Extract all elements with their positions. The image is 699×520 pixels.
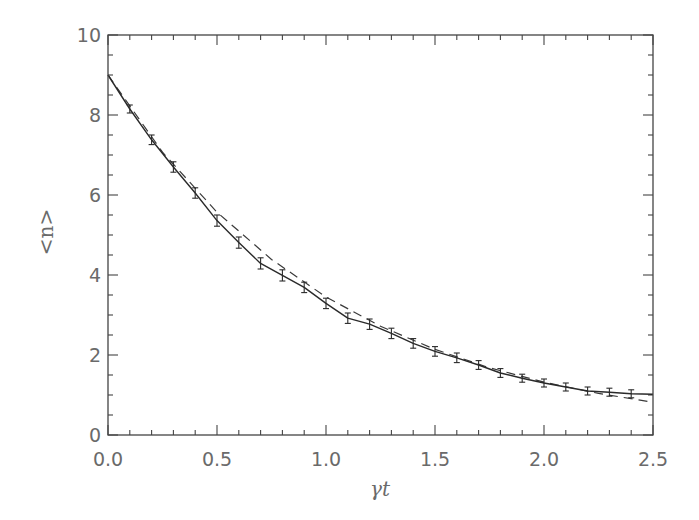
x-tick-label: 0.5 [202, 448, 232, 470]
series-simulation-solid [108, 75, 653, 394]
y-tick-label: 0 [89, 424, 101, 446]
x-tick-labels: 0.00.51.01.52.02.5 [93, 448, 668, 470]
y-tick-label: 4 [89, 264, 101, 286]
x-axis-label: γt [370, 477, 391, 501]
series-exponential-dashed [108, 75, 653, 402]
plot-frame [108, 35, 653, 435]
y-tick-label: 6 [89, 184, 101, 206]
chart: 0.00.51.01.52.02.5 0246810 γt <n> [0, 0, 699, 520]
x-tick-label: 2.5 [638, 448, 668, 470]
major-ticks [108, 35, 653, 435]
y-axis-label: <n> [34, 209, 58, 255]
error-bars [127, 105, 634, 398]
minor-ticks [108, 35, 653, 435]
y-tick-labels: 0246810 [77, 24, 101, 446]
y-tick-label: 8 [89, 104, 101, 126]
y-tick-label: 2 [89, 344, 101, 366]
dashed-line [108, 75, 653, 402]
x-tick-label: 1.5 [420, 448, 450, 470]
y-tick-label: 10 [77, 24, 101, 46]
x-tick-label: 1.0 [311, 448, 341, 470]
x-tick-label: 2.0 [529, 448, 559, 470]
solid-line [108, 75, 653, 394]
x-tick-label: 0.0 [93, 448, 123, 470]
